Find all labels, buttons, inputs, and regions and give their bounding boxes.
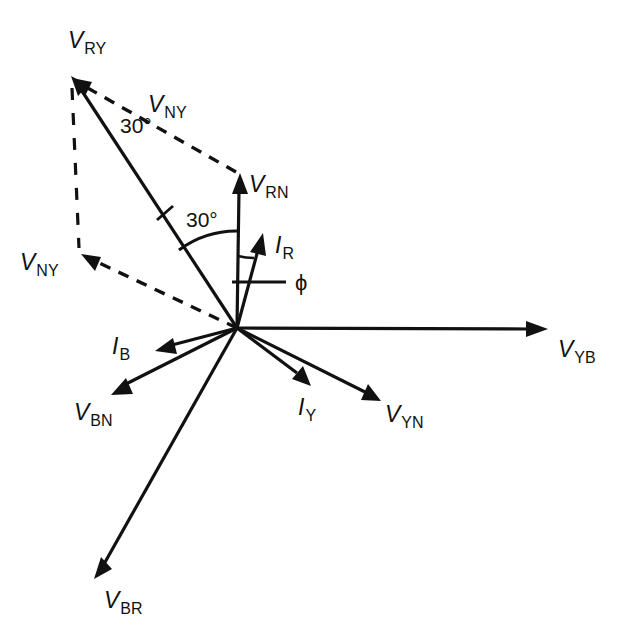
- label-phi: ϕ: [295, 270, 307, 295]
- phasor-diagram-figure: VRY VNY 30° VRN 30° IR ϕ VNY VYB IB VBN …: [0, 0, 622, 644]
- label-i-b-main: I: [112, 333, 119, 359]
- label-v-yb: VYB: [558, 336, 596, 366]
- label-angle-ny-to-rn: 30°: [186, 208, 218, 231]
- v-rn-arrowhead: [232, 173, 248, 194]
- label-v-yn: VYN: [385, 401, 424, 431]
- label-v-br-main: V: [104, 587, 122, 613]
- label-v-ny-upper-sub: NY: [164, 104, 187, 121]
- closure-dashed-vertical-line: [72, 88, 79, 248]
- phasor-diagram-canvas: VRY VNY 30° VRN 30° IR ϕ VNY VYB IB VBN …: [0, 0, 622, 644]
- label-angle-ry-to-rn: 30°: [120, 114, 152, 137]
- angle-arc-phi: [238, 256, 254, 258]
- i-y-arrowhead: [292, 366, 311, 386]
- i-r-vector-line: [237, 250, 258, 328]
- angle-arc-ry-to-rn: [179, 231, 238, 250]
- label-v-rn-main: V: [249, 171, 267, 197]
- v-ny-lower-arrowhead: [81, 254, 101, 271]
- label-v-ny-lower-main: V: [20, 249, 38, 275]
- i-r-arrowhead: [250, 233, 266, 256]
- label-i-r-main: I: [275, 232, 282, 258]
- label-v-rn-sub: RN: [265, 184, 288, 201]
- label-i-y-sub: Y: [305, 407, 316, 424]
- label-i-y-main: I: [298, 394, 305, 420]
- label-i-y: IY: [298, 394, 316, 424]
- label-v-bn-main: V: [74, 399, 92, 425]
- v-yb-vector-line: [237, 328, 530, 329]
- angle-arcs-group: [179, 231, 286, 282]
- v-yb-arrowhead: [526, 321, 548, 337]
- v-br-vector-line: [104, 328, 237, 564]
- label-v-yb-main: V: [558, 336, 576, 362]
- label-v-yn-sub: YN: [401, 414, 423, 431]
- v-yn-vector-line: [237, 328, 365, 392]
- v-rn-vector-line: [237, 190, 239, 328]
- label-v-br: VBR: [104, 587, 143, 617]
- label-v-bn: VBN: [74, 399, 113, 429]
- phasor-vectors-group: [71, 76, 548, 579]
- label-v-br-sub: BR: [120, 600, 142, 617]
- label-v-ny-lower-sub: NY: [36, 262, 59, 279]
- v-br-arrowhead: [94, 557, 112, 579]
- label-i-r-sub: R: [282, 245, 294, 262]
- label-v-yb-sub: YB: [574, 349, 595, 366]
- label-v-ny-upper: VNY: [148, 91, 187, 121]
- label-v-ry-main: V: [68, 27, 86, 53]
- i-y-vector-line: [237, 328, 297, 373]
- label-i-b-sub: B: [119, 346, 130, 363]
- i-b-arrowhead: [155, 338, 177, 354]
- label-i-b: IB: [112, 333, 130, 363]
- label-v-bn-sub: BN: [90, 412, 112, 429]
- label-v-rn: VRN: [249, 171, 288, 201]
- label-v-ry-sub: RY: [84, 40, 106, 57]
- labels-group: VRY VNY 30° VRN 30° IR ϕ VNY VYB IB VBN …: [20, 27, 596, 617]
- label-v-ry: VRY: [68, 27, 107, 57]
- label-v-ny-lower: VNY: [20, 249, 59, 279]
- label-i-r: IR: [275, 232, 294, 262]
- label-v-yn-main: V: [385, 401, 403, 427]
